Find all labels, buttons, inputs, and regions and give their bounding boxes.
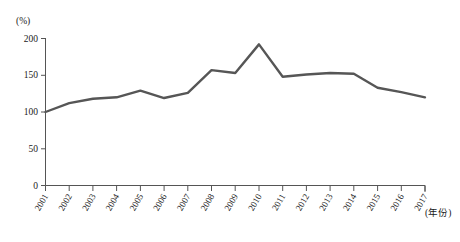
x-tick-label-2004: 2004 xyxy=(104,192,122,213)
line-chart: (%) 200 150 100 50 0 xyxy=(0,0,460,242)
x-tick-label-2001: 2001 xyxy=(33,192,51,213)
x-tick-label-2011: 2011 xyxy=(270,192,287,212)
x-tick-label-2015: 2015 xyxy=(365,192,383,213)
x-tick-label-2009: 2009 xyxy=(222,192,240,213)
series-line-path xyxy=(46,44,426,112)
x-axis-title: (年份) xyxy=(425,207,451,219)
y-tick-label-200: 200 xyxy=(24,34,39,44)
x-tick-label-2005: 2005 xyxy=(127,192,145,213)
x-tick-label-2012: 2012 xyxy=(293,192,311,213)
x-tick-label-2002: 2002 xyxy=(56,192,74,213)
x-tick-label-2008: 2008 xyxy=(199,192,217,213)
x-tick-label-2006: 2006 xyxy=(151,192,169,213)
x-tick-label-2013: 2013 xyxy=(317,192,335,213)
x-tick-label-2010: 2010 xyxy=(246,192,264,213)
x-tick-label-2007: 2007 xyxy=(175,192,193,213)
y-tick-label-150: 150 xyxy=(24,70,39,80)
x-axis-ticks xyxy=(46,186,426,192)
y-tick-label-50: 50 xyxy=(29,144,39,154)
y-tick-label-100: 100 xyxy=(24,107,39,117)
x-tick-label-2016: 2016 xyxy=(388,192,406,213)
y-tick-label-0: 0 xyxy=(33,181,38,191)
x-tick-label-2003: 2003 xyxy=(80,192,98,213)
y-axis-unit-label: (%) xyxy=(16,16,30,27)
x-tick-label-2014: 2014 xyxy=(341,192,359,213)
x-axis-labels: 2001 2002 2003 2004 2005 2006 2007 2008 … xyxy=(33,192,430,213)
